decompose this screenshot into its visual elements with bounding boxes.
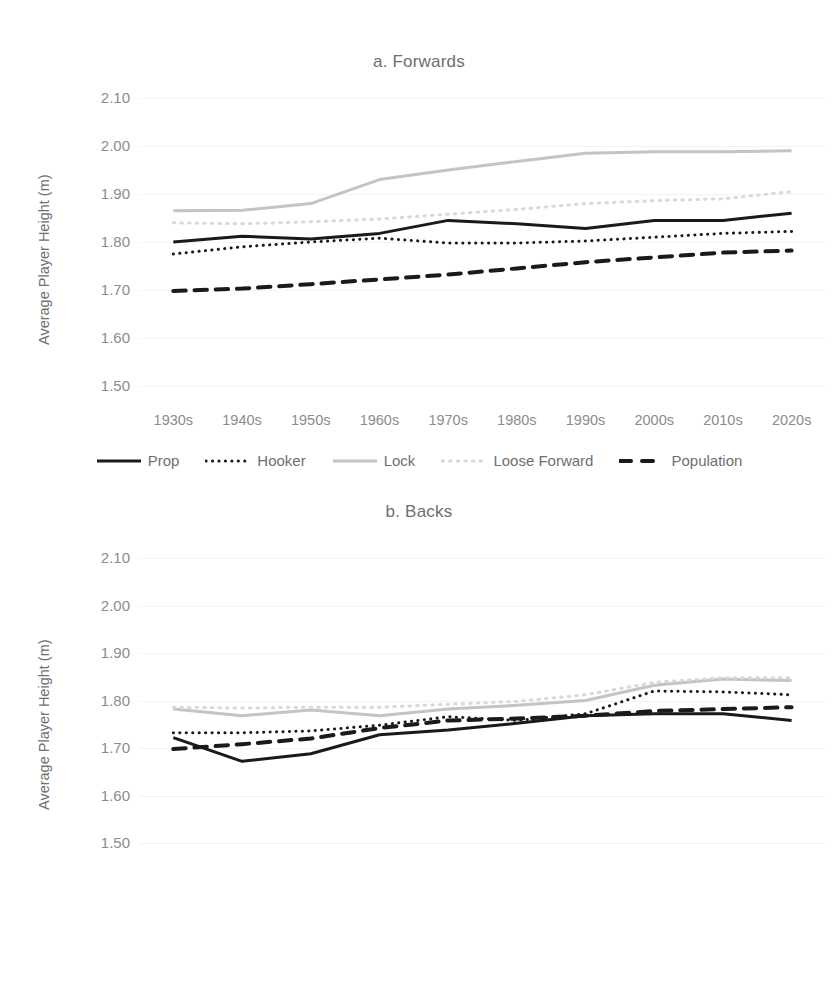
x-tick-label: 1930s	[154, 412, 194, 428]
chart-b-series-group	[0, 460, 838, 930]
x-tick-label: 1970s	[428, 412, 468, 428]
x-tick-label: 1950s	[291, 412, 331, 428]
figure-page: a. Forwards Average Player Height (m) 2.…	[0, 0, 838, 982]
series-line-hooker	[173, 231, 791, 254]
chart-a-plot-area: 2.102.001.901.801.701.601.50	[0, 0, 838, 440]
x-tick-label: 2020s	[772, 412, 812, 428]
x-tick-label: 1990s	[566, 412, 606, 428]
x-tick-label: 2010s	[703, 412, 743, 428]
series-line-prop	[173, 213, 791, 242]
chart-b-plot-area: 2.102.001.901.801.701.601.50	[0, 460, 838, 930]
chart-a-series-group	[0, 0, 838, 440]
x-tick-label: 1960s	[360, 412, 400, 428]
x-tick-label: 2000s	[634, 412, 674, 428]
series-line-population	[173, 251, 791, 291]
series-line-centre	[173, 679, 791, 716]
series-line-scrum-half	[173, 714, 791, 762]
series-line-lock	[173, 151, 791, 211]
x-tick-label: 1980s	[497, 412, 537, 428]
chart-panel-backs: b. Backs Average Player Height (m) 2.102…	[0, 460, 838, 982]
chart-panel-forwards: a. Forwards Average Player Height (m) 2.…	[0, 0, 838, 490]
x-tick-label: 1940s	[222, 412, 262, 428]
